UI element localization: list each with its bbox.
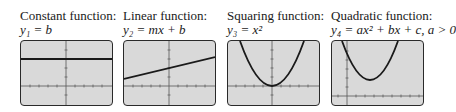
graph-screen — [227, 40, 320, 106]
panel-equation: y₃ = x² — [227, 23, 262, 37]
panel-title: Constant function: — [20, 9, 116, 23]
panel-equation: y₁ = b — [20, 23, 52, 37]
graph-screen — [331, 40, 424, 106]
panel-equation: y₄ = ax² + bx + c, a > 0 — [331, 23, 456, 37]
linear-graph — [124, 41, 215, 105]
constant-graph — [21, 41, 112, 105]
squaring-graph — [228, 41, 319, 105]
quadratic-graph — [332, 41, 423, 105]
panel-equation: y₂ = mx + b — [123, 23, 186, 37]
graph-screen — [20, 40, 113, 106]
panel-title: Squaring function: — [227, 9, 324, 23]
panel-title: Linear function: — [123, 9, 207, 23]
graph-screen — [123, 40, 216, 106]
panel-title: Quadratic function: — [331, 9, 432, 23]
